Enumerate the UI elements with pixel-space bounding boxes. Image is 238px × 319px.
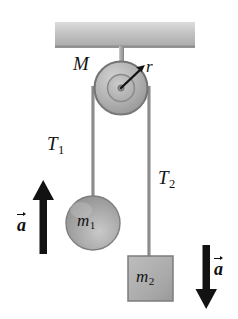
vector-overbar-icon [17,212,26,217]
label-tension-t1: T1 [47,134,64,156]
rope-left [91,86,94,198]
acceleration-arrow-up [33,180,55,254]
diagram-canvas [0,0,238,319]
label-pulley-mass: M [73,54,89,73]
label-acceleration-left: a [17,212,26,234]
label-tension-t2: T2 [158,168,175,190]
label-acceleration-right: a [214,256,223,278]
ceiling-bar [55,22,195,48]
label-pulley-radius: r [146,58,153,75]
physics-diagram-atwood-machine: M r T1 T2 m1 m2 a a [0,0,238,319]
rope-right [147,86,150,258]
label-mass-m2: m2 [136,268,154,287]
vector-overbar-icon [214,256,223,261]
label-mass-m1: m1 [77,212,95,231]
